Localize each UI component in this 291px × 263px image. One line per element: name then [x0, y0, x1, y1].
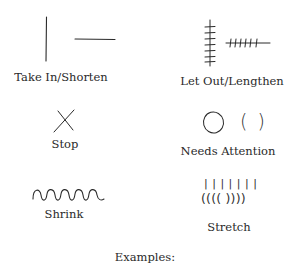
vertical-bars-icon: | | | | | | |	[204, 178, 257, 189]
parentheses-icon: ( )	[240, 112, 267, 131]
label-stop: Stop	[52, 139, 79, 151]
label-take-in-shorten: Take In/Shorten	[14, 72, 107, 84]
label-let-out-lengthen: Let Out/Lengthen	[180, 76, 284, 88]
circle-icon	[201, 110, 226, 135]
stretch-parentheses-icon: (((( ))))	[201, 193, 246, 206]
label-shrink: Shrink	[45, 209, 84, 221]
examples-caption: Examples:	[115, 252, 175, 263]
straight-line-icon	[46, 17, 115, 61]
wavy-line-icon	[33, 190, 104, 201]
label-stretch: Stretch	[207, 222, 250, 234]
x-mark-icon	[54, 110, 74, 132]
label-needs-attention: Needs Attention	[181, 146, 276, 158]
hatched-line-icon	[205, 20, 270, 66]
alteration-marks-legend: ( ) | | | | | | | (((( )))) Take In/Shor…	[0, 0, 291, 263]
